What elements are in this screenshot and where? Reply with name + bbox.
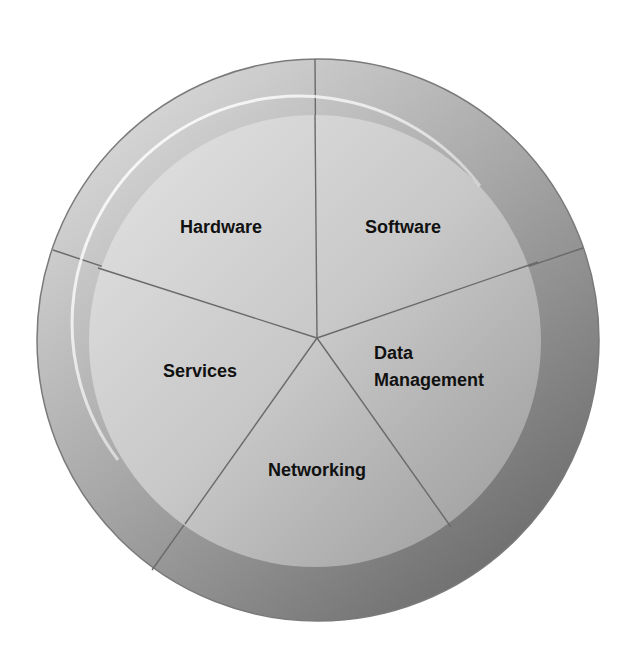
- segment-label-networking: Networking: [268, 460, 366, 480]
- segment-label-data-management-line2: Management: [374, 370, 484, 390]
- segment-label-data-management-line1: Data: [374, 343, 414, 363]
- segment-label-services: Services: [163, 361, 237, 381]
- segment-label-hardware: Hardware: [180, 217, 262, 237]
- it-components-diagram: Hardware Software Data Management Networ…: [0, 0, 634, 668]
- segment-label-software: Software: [365, 217, 441, 237]
